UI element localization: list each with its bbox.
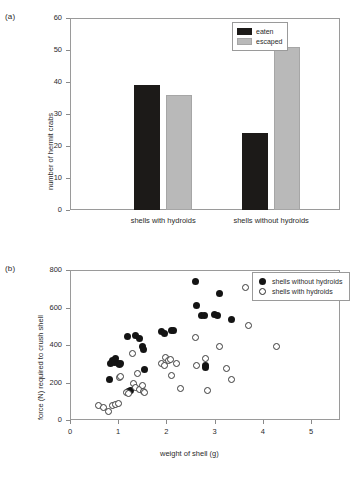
scatter-x-tick [166,420,167,424]
bar-escaped-shells-without-hydroids [274,47,300,210]
scatter-x-tick [311,420,312,424]
scatter-x-tick [263,420,264,424]
scatter-y-tick [66,345,70,346]
legend-item-with-hydroids: shells with hydroids [257,287,344,296]
legend-item-escaped: escaped [237,37,282,46]
bar-y-tick-label: 0 [38,205,62,214]
legend-label-without-hydroids: shells without hydroids [272,277,342,286]
panel-a-label: (a) [5,12,15,21]
scatter-point [134,370,141,377]
scatter-point [192,278,199,285]
scatter-point [193,362,200,369]
scatter-x-axis-title: weight of shell (g) [160,449,219,458]
scatter-point [161,330,168,337]
scatter-x-tick [215,420,216,424]
legend-label-escaped: escaped [256,37,282,46]
bar-category-label: shells without hydroids [211,216,331,225]
bar-y-tick-label: 40 [38,77,62,86]
scatter-point [245,322,252,329]
bar-escaped-shells-with-hydroids [166,95,192,210]
bar-category-label: shells with hydroids [103,216,223,225]
scatter-x-tick-label: 4 [253,427,273,436]
scatter-point [192,334,199,341]
scatter-y-tick [66,383,70,384]
bar-chart-y-axis-title: number of hermit crabs [46,113,55,190]
bar-y-tick [66,82,70,83]
scatter-point [173,360,180,367]
scatter-legend: shells without hydroids shells with hydr… [252,272,350,301]
eaten-swatch-icon [237,28,252,35]
scatter-point [202,355,209,362]
bar-y-tick-label: 50 [38,45,62,54]
scatter-point [214,312,221,319]
scatter-point [204,387,211,394]
scatter-point [201,312,208,319]
scatter-y-axis-title: force (N) required to crush shell [36,315,45,420]
scatter-x-tick-label: 2 [156,427,176,436]
bar-y-tick [66,210,70,211]
bar-eaten-shells-with-hydroids [134,85,160,210]
scatter-y-tick [66,270,70,271]
scatter-point [140,346,147,353]
scatter-x-tick-label: 3 [205,427,225,436]
scatter-point [216,290,223,297]
bar-y-tick [66,146,70,147]
scatter-y-tick-label: 800 [36,265,62,274]
legend-item-without-hydroids: shells without hydroids [257,277,344,286]
scatter-x-tick [118,420,119,424]
scatter-point [193,302,200,309]
bar-y-tick [66,178,70,179]
bar-y-tick [66,18,70,19]
scatter-x-tick [70,420,71,424]
scatter-y-tick [66,308,70,309]
escaped-swatch-icon [237,38,252,45]
bar-y-tick [66,114,70,115]
panel-b-scatter-chart: (b) 0200400600800 012345 force (N) requi… [0,252,354,481]
panel-a-bar-chart: (a) 0102030405060 shells with hydroidssh… [0,0,354,240]
filled-circle-icon [259,278,266,285]
scatter-y-tick-label: 600 [36,303,62,312]
scatter-x-tick-label: 5 [301,427,321,436]
legend-item-eaten: eaten [237,27,282,36]
bar-chart-legend: eaten escaped [232,22,288,51]
bar-eaten-shells-without-hydroids [242,133,268,210]
bar-y-tick-label: 60 [38,13,62,22]
legend-label-with-hydroids: shells with hydroids [272,287,333,296]
open-circle-icon [259,288,266,295]
panel-b-label: (b) [5,264,15,273]
bar-chart-plot-area [70,18,340,210]
bar-y-tick [66,50,70,51]
legend-label-eaten: eaten [256,27,274,36]
scatter-x-tick-label: 0 [60,427,80,436]
scatter-x-tick-label: 1 [108,427,128,436]
scatter-point [115,400,122,407]
